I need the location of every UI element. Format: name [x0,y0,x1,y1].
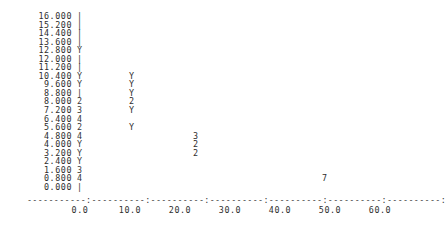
x-axis-tick-label: 20.0 [165,205,195,215]
x-axis-line: -----------:----------:----------:------… [27,196,446,204]
y-axis-cell: | [77,183,86,192]
data-marker: Y [129,106,138,115]
x-axis-tick-label: 0.0 [65,205,95,215]
y-axis-tick-label: 0.000 [0,183,72,192]
data-marker: 7 [322,174,331,183]
data-marker: Y [129,123,138,132]
x-axis-tick-label: 60.0 [365,205,395,215]
x-axis-tick-label: 50.0 [315,205,345,215]
x-axis-tick-label: 10.0 [115,205,145,215]
x-axis-tick-label: 30.0 [215,205,245,215]
x-axis-tick-label: 40.0 [265,205,295,215]
data-marker: 2 [193,149,202,158]
